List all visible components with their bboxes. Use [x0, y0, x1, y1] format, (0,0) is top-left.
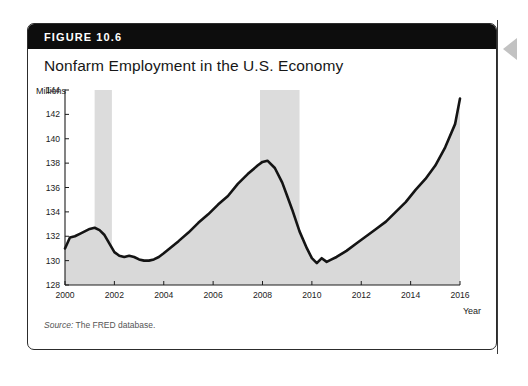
x-tick-label: 2014: [401, 290, 420, 300]
x-tick-label: 2006: [204, 290, 223, 300]
employment-line-chart: 128130132134136138140142144 200020022004…: [28, 82, 497, 320]
y-tick-label: 134: [46, 207, 61, 217]
figure-card: FIGURE 10.6 Nonfarm Employment in the U.…: [27, 23, 497, 350]
y-tick-label: 132: [46, 231, 61, 241]
x-tick-label: 2010: [302, 290, 321, 300]
x-tick-label: 2002: [105, 290, 124, 300]
y-tick-label: 138: [46, 158, 61, 168]
chart-plot-area: 128130132134136138140142144 200020022004…: [28, 82, 497, 320]
figure-header-bar: FIGURE 10.6: [28, 24, 496, 49]
y-tick-label: 136: [46, 183, 61, 193]
left-pointing-arrow-icon: [503, 38, 517, 60]
x-tick-label: 2008: [253, 290, 272, 300]
x-tick-label: 2012: [352, 290, 371, 300]
x-tick-label: 2004: [154, 290, 173, 300]
y-axis-label: Millions: [36, 86, 67, 96]
y-tick-label: 142: [46, 109, 61, 119]
source-text: The FRED database.: [73, 320, 155, 330]
y-tick-label: 128: [46, 280, 61, 290]
page-divider: [497, 20, 498, 354]
figure-title: Nonfarm Employment in the U.S. Economy: [44, 57, 343, 75]
x-tick-label: 2000: [55, 290, 74, 300]
source-prefix: Source:: [44, 320, 73, 330]
x-tick-label: 2016: [450, 290, 469, 300]
x-axis-label: Year: [463, 306, 481, 316]
y-tick-label: 140: [46, 134, 61, 144]
y-tick-label: 130: [46, 256, 61, 266]
figure-number-label: FIGURE 10.6: [44, 31, 122, 43]
source-note: Source: The FRED database.: [44, 320, 155, 330]
